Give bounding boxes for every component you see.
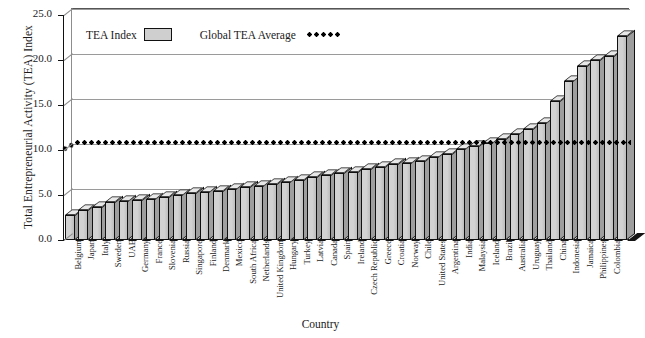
bar-front-face: [119, 201, 129, 240]
x-axis-title: Country: [0, 318, 641, 330]
bar-front-face: [92, 207, 102, 240]
x-axis-tick-label: Russia: [181, 240, 191, 263]
bar-front-face: [550, 101, 560, 240]
y-axis-tick-label: 5.0: [12, 187, 52, 199]
x-axis-tick-label: Singapore: [194, 240, 204, 275]
x-axis-tick-label: Greece: [383, 240, 393, 264]
x-axis-tick-label: Iceland: [491, 240, 501, 265]
bar-front-face: [617, 36, 627, 240]
legend-bar-label: TEA Index: [86, 29, 137, 41]
x-axis-tick-label: UAE: [127, 240, 137, 258]
x-axis-tick-label: Slovenia: [167, 240, 177, 270]
bar: [483, 143, 493, 240]
chart-legend: TEA Index Global TEA Average: [86, 28, 341, 41]
x-axis-tick-label: China: [558, 240, 568, 261]
bar: [227, 189, 237, 240]
x-axis-tick-label: United States: [437, 240, 447, 286]
bar: [402, 163, 412, 240]
x-axis-tick-label: Japan: [86, 240, 96, 260]
x-axis-tick-label: Finland: [208, 240, 218, 266]
bar-front-face: [254, 186, 264, 240]
x-axis-tick-label: Canada: [329, 240, 339, 266]
bar-front-face: [227, 189, 237, 240]
x-axis-tick-label: Sweden: [113, 240, 123, 267]
x-axis-tick-label: Belgium: [73, 240, 83, 270]
bar-front-face: [577, 66, 587, 240]
bar-front-face: [321, 175, 331, 240]
x-axis-tick-label: Jamaica: [585, 240, 595, 268]
bar-front-face: [267, 184, 277, 240]
bar-front-face: [469, 146, 479, 240]
x-axis-tick-label: Mexico: [234, 240, 244, 266]
bar: [523, 129, 533, 240]
bar-front-face: [590, 60, 600, 240]
x-axis-tick-label: Norway: [410, 240, 420, 268]
x-axis-tick-label: Turkey: [302, 240, 312, 265]
x-axis-tick-label: Hungary: [288, 240, 298, 270]
bar: [132, 200, 142, 241]
x-axis-tick-label: Spain: [342, 240, 352, 260]
bar-front-face: [213, 191, 223, 241]
bar-front-face: [456, 149, 466, 240]
y-axis-tick-label: 0.0: [12, 232, 52, 244]
bar: [456, 149, 466, 240]
bar: [281, 182, 291, 241]
bar: [510, 134, 520, 240]
bar: [321, 175, 331, 240]
bar: [119, 201, 129, 240]
bar-front-face: [240, 187, 250, 240]
bar-front-face: [173, 195, 183, 240]
bar: [186, 193, 196, 240]
bar-front-face: [388, 164, 398, 240]
bar-front-face: [159, 197, 169, 240]
bar: [388, 164, 398, 240]
bar-front-face: [510, 134, 520, 240]
bar: [267, 184, 277, 240]
x-axis-tick-label: Ireland: [356, 240, 366, 264]
y-axis-tick-label: 15.0: [12, 97, 52, 109]
x-axis-tick-label: Thailand: [544, 240, 554, 271]
bar-front-face: [483, 143, 493, 240]
bar-front-face: [564, 81, 574, 240]
bar: [213, 191, 223, 241]
x-axis-tick-label: Colombia: [612, 240, 622, 274]
bar-side-face: [627, 29, 635, 240]
bar: [240, 187, 250, 240]
bar-front-face: [186, 193, 196, 240]
bar: [429, 157, 439, 240]
bar-front-face: [375, 167, 385, 240]
x-axis-tick-label: Croatia: [396, 240, 406, 265]
bar: [604, 56, 614, 240]
x-axis-tick-label: France: [154, 240, 164, 263]
x-axis-tick-label: Italy: [100, 240, 110, 256]
x-axis-tick-label: India: [464, 240, 474, 258]
bar: [105, 202, 115, 240]
bar: [78, 210, 88, 240]
bar-front-face: [307, 177, 317, 240]
bar: [159, 197, 169, 240]
bar-front-face: [402, 163, 412, 240]
bar-front-face: [348, 172, 358, 240]
x-axis-tick-label: Malaysia: [477, 240, 487, 272]
legend-line-label: Global TEA Average: [200, 29, 296, 41]
bar-front-face: [415, 161, 425, 240]
bar-front-face: [604, 56, 614, 240]
bar: [307, 177, 317, 240]
bar-front-face: [496, 139, 506, 240]
x-axis-tick-label: Germany: [140, 240, 150, 272]
bar: [415, 161, 425, 240]
x-axis-tick-label: United Kingdom: [275, 240, 285, 298]
bar: [361, 169, 371, 240]
bar-front-face: [429, 157, 439, 240]
bar: [254, 186, 264, 240]
bar: [375, 167, 385, 240]
y-axis-tick-label: 20.0: [12, 52, 52, 64]
bar: [550, 101, 560, 240]
legend-dotted-line-swatch: [307, 32, 341, 37]
x-axis-tick-label: Argentina: [450, 240, 460, 274]
x-axis-tick-label: South Africa: [248, 240, 258, 284]
x-axis-tick-label: Chile: [423, 240, 433, 259]
bar: [92, 207, 102, 240]
bar-front-face: [78, 210, 88, 240]
